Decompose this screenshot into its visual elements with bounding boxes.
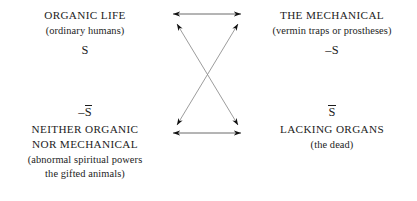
quadrant-top-right: THE MECHANICAL (vermin traps or prosthes… <box>247 8 417 59</box>
quadrant-bottom-right-symbol: S <box>247 104 417 121</box>
semiotic-square-diagram: ORGANIC LIFE (ordinary humans) S THE MEC… <box>0 0 417 201</box>
quadrant-bottom-right-heading: LACKING ORGANS <box>247 122 417 137</box>
quadrant-bottom-right-symbol-letter: S <box>328 105 335 119</box>
quadrant-bottom-left-symbol: –S <box>0 104 170 121</box>
quadrant-top-left-symbol-letter: S <box>81 43 88 57</box>
quadrant-top-left-symbol: S <box>0 42 170 59</box>
quadrant-bottom-left-gloss-line-2: the gifted animals) <box>0 167 170 181</box>
quadrant-top-right-symbol-letter: S <box>332 43 339 57</box>
quadrant-top-right-gloss: (vermin traps or prostheses) <box>247 24 417 38</box>
quadrant-bottom-right-gloss: (the dead) <box>247 138 417 152</box>
quadrant-top-right-heading: THE MECHANICAL <box>247 8 417 23</box>
quadrant-top-left: ORGANIC LIFE (ordinary humans) S <box>0 8 170 59</box>
quadrant-top-left-gloss: (ordinary humans) <box>0 24 170 38</box>
quadrant-bottom-left-symbol-letter: S <box>85 105 92 119</box>
quadrant-bottom-left-heading-line-2: NOR MECHANICAL <box>0 137 170 152</box>
quadrant-bottom-left-heading-line-1: NEITHER ORGANIC <box>0 122 170 137</box>
quadrant-bottom-left-gloss-line-1: (abnormal spiritual powers <box>0 153 170 167</box>
quadrant-top-right-symbol: –S <box>247 42 417 59</box>
quadrant-bottom-left: –S NEITHER ORGANIC NOR MECHANICAL (abnor… <box>0 104 170 181</box>
quadrant-top-left-heading: ORGANIC LIFE <box>0 8 170 23</box>
quadrant-bottom-right: S LACKING ORGANS (the dead) <box>247 104 417 152</box>
